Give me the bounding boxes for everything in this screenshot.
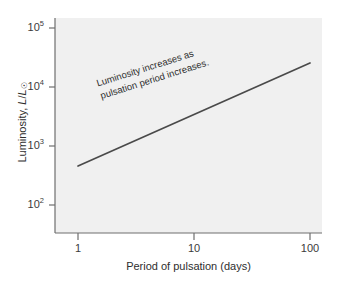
ytick-exponent-1e2: 2 — [40, 196, 44, 205]
data-line-period-luminosity — [78, 63, 310, 166]
sun-symbol-icon: ☉ — [20, 82, 29, 89]
ytick-exponent-1e4: 4 — [40, 78, 44, 87]
xtick-label-1: 1 — [58, 242, 98, 254]
plot-svg — [0, 0, 340, 283]
ytick-exponent-1e5: 5 — [40, 19, 44, 28]
figure-container: 105 104 103 102 1 10 100 Period of pulsa… — [0, 0, 340, 283]
y-tick-marks — [49, 28, 55, 205]
xtick-label-100: 100 — [290, 242, 330, 254]
y-axis-title-denominator: L — [16, 89, 28, 95]
xtick-label-10: 10 — [174, 242, 214, 254]
y-axis-title-prefix: Luminosity, — [16, 105, 28, 163]
ytick-exponent-1e3: 3 — [40, 137, 44, 146]
y-axis-title-slash: / — [16, 96, 28, 99]
y-axis-title-numerator: L — [16, 99, 28, 105]
x-tick-marks — [78, 233, 310, 240]
ytick-label-1e5: 105 — [2, 21, 44, 33]
x-axis-title: Period of pulsation (days) — [55, 260, 322, 272]
y-axis-title: Luminosity, L/L☉ — [16, 43, 29, 203]
